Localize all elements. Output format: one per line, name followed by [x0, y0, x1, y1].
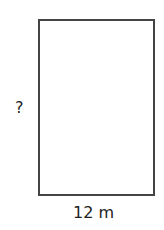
width-label: 12 m	[73, 205, 114, 221]
rectangle-shape	[38, 19, 155, 196]
height-label: ?	[15, 100, 24, 116]
